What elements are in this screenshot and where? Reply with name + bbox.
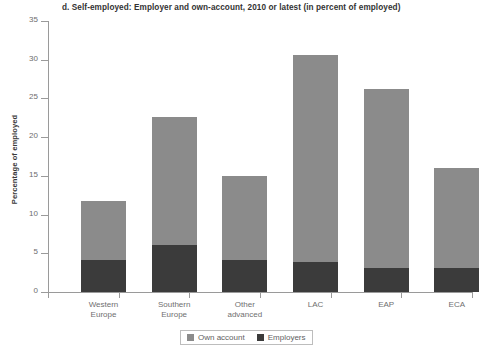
x-axis-label: EAP <box>346 300 426 310</box>
bar-segment-own-account[interactable] <box>364 89 409 268</box>
y-axis-tick-label: 35 <box>29 15 38 24</box>
y-axis-tick: 25 <box>41 98 48 99</box>
y-axis-tick: 0 <box>41 292 48 293</box>
x-axis-tick <box>401 292 402 298</box>
bar-group[interactable] <box>152 117 197 292</box>
x-axis-label-line: LAC <box>276 300 356 310</box>
y-axis-line <box>48 21 49 292</box>
y-axis-title: Percentage of employed <box>10 90 19 230</box>
y-axis-tick-label: 20 <box>29 131 38 140</box>
x-axis-label-line: Southern <box>134 300 214 310</box>
bar-segment-employers[interactable] <box>81 260 126 292</box>
x-axis-label-line: ECA <box>417 300 483 310</box>
y-axis-tick-label: 5 <box>34 247 38 256</box>
y-axis-tick-label: 30 <box>29 54 38 63</box>
x-axis-label: LAC <box>276 300 356 310</box>
bar-segment-employers[interactable] <box>434 268 479 292</box>
bar-segment-own-account[interactable] <box>434 168 479 268</box>
bar-group[interactable] <box>222 176 267 292</box>
bar-segment-employers[interactable] <box>364 268 409 292</box>
x-axis-label-line: Europe <box>64 310 144 320</box>
x-axis-label-line: advanced <box>205 310 285 320</box>
x-axis-label-line: EAP <box>346 300 426 310</box>
bar-segment-employers[interactable] <box>222 260 267 292</box>
y-axis-tick: 20 <box>41 137 48 138</box>
bar-group[interactable] <box>364 89 409 292</box>
legend-item-label: Own account <box>198 333 245 342</box>
y-axis-tick: 10 <box>41 215 48 216</box>
x-axis-label: SouthernEurope <box>134 300 214 320</box>
x-axis-tick <box>119 292 120 298</box>
y-axis-tick-label: 25 <box>29 92 38 101</box>
x-axis-label-line: Europe <box>134 310 214 320</box>
y-axis-tick: 30 <box>41 60 48 61</box>
bar-segment-own-account[interactable] <box>81 201 126 261</box>
x-axis-label: Otheradvanced <box>205 300 285 320</box>
y-axis-tick: 15 <box>41 176 48 177</box>
square-swatch-gray <box>187 334 194 341</box>
legend-item-label: Employers <box>268 333 306 342</box>
chart-legend: Own accountEmployers <box>180 330 313 345</box>
y-axis-tick-label: 0 <box>34 286 38 295</box>
y-axis-tick: 5 <box>41 253 48 254</box>
bar-segment-own-account[interactable] <box>152 117 197 245</box>
x-axis-tick <box>472 292 473 298</box>
x-axis-tick <box>331 292 332 298</box>
y-axis-tick-label: 10 <box>29 209 38 218</box>
legend-item[interactable]: Own account <box>187 333 245 342</box>
bar-group[interactable] <box>434 168 479 292</box>
x-axis-tick <box>189 292 190 298</box>
chart-title: d. Self-employed: Employer and own-accou… <box>62 2 472 13</box>
x-axis-label-line: Western <box>64 300 144 310</box>
y-axis-tick: 35 <box>41 21 48 22</box>
x-axis-label-line: Other <box>205 300 285 310</box>
y-axis-tick-label: 15 <box>29 170 38 179</box>
x-axis-tick <box>260 292 261 298</box>
bar-segment-employers[interactable] <box>152 245 197 292</box>
bar-group[interactable] <box>81 201 126 292</box>
plot-area: 05101520253035 <box>48 21 472 292</box>
bar-group[interactable] <box>293 55 338 292</box>
x-axis-label: ECA <box>417 300 483 310</box>
x-axis-label: WesternEurope <box>64 300 144 320</box>
bar-segment-own-account[interactable] <box>293 55 338 262</box>
bar-segment-own-account[interactable] <box>222 176 267 260</box>
x-axis-tick <box>48 292 49 298</box>
square-swatch-dark <box>257 334 264 341</box>
bar-segment-employers[interactable] <box>293 262 338 292</box>
legend-item[interactable]: Employers <box>257 333 306 342</box>
